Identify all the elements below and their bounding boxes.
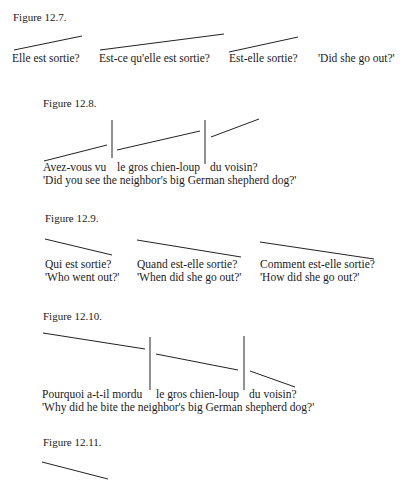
contour-line: [100, 34, 224, 50]
sentence-segment: Pourquoi a-t-il mordu: [42, 388, 142, 401]
gloss: 'Who went out?': [45, 271, 119, 284]
sentence: Comment est-elle sortie?: [260, 258, 375, 271]
figure-caption: Figure 12.7.: [13, 11, 66, 24]
sentence-segment: Avez-vous vu: [43, 161, 106, 174]
contour-line: [45, 239, 112, 255]
contour-line: [14, 36, 82, 50]
contour-line: [229, 37, 298, 52]
contour-line: [44, 145, 107, 161]
sentence-segment: le gros chien-loup: [117, 161, 200, 174]
sentence-segment: le gros chien-loup: [156, 388, 239, 401]
sentence: Elle est sortie?: [12, 52, 80, 65]
contour-line: [42, 462, 108, 479]
gloss: 'Did she go out?': [318, 52, 395, 65]
sentence: Quand est-elle sortie?: [137, 258, 237, 271]
sentence-segment: du voisin?: [210, 161, 258, 174]
contour-line: [260, 242, 374, 259]
gloss: 'When did she go out?': [137, 271, 241, 284]
contour-line: [117, 131, 200, 150]
sentence: Est-elle sortie?: [229, 52, 298, 65]
sentence: Est-ce qu'elle est sortie?: [99, 52, 210, 65]
figure-caption: Figure 12.8.: [43, 97, 96, 110]
gloss: 'Why did he bite the neighbor's big Germ…: [42, 401, 314, 414]
contour-line: [156, 354, 238, 370]
figure-caption: Figure 12.11.: [43, 436, 102, 449]
contour-line: [43, 333, 145, 349]
figure-caption: Figure 12.9.: [45, 212, 98, 225]
contour-line: [250, 371, 295, 387]
gloss: 'Did you see the neighbor's big German s…: [43, 174, 296, 187]
contour-line: [211, 119, 259, 137]
sentence-segment: du voisin?: [249, 388, 297, 401]
figure-caption: Figure 12.10.: [43, 310, 102, 323]
contour-line: [137, 240, 241, 257]
gloss: 'How did she go out?': [260, 271, 359, 284]
sentence: Qui est sortie?: [45, 258, 111, 271]
